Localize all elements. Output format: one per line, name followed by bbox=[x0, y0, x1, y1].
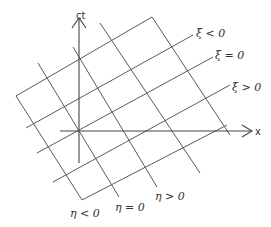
eta-lines bbox=[16, 17, 230, 200]
eta-negative-label: η < 0 bbox=[70, 207, 100, 220]
xi-positive-label: ξ > 0 bbox=[232, 81, 261, 94]
xi-line-positive bbox=[53, 85, 230, 182]
eta-zero-label: η = 0 bbox=[115, 201, 145, 214]
xi-negative-label: ξ < 0 bbox=[196, 27, 225, 40]
eta-line-positive bbox=[73, 47, 157, 187]
ct-axis-label: ct bbox=[76, 10, 85, 21]
characteristic-coordinates-diagram: ct x ξ < 0 ξ = 0 ξ > 0 η < 0 η = 0 η > 0 bbox=[0, 0, 271, 227]
eta-line-4 bbox=[100, 23, 200, 173]
eta-positive-label: η > 0 bbox=[155, 190, 185, 203]
xi-line-top-edge bbox=[16, 17, 152, 96]
xi-zero-label: ξ = 0 bbox=[215, 49, 244, 62]
x-axis-label: x bbox=[255, 126, 261, 137]
axes: ct x bbox=[60, 10, 261, 163]
xi-line-bottom-edge bbox=[82, 125, 227, 200]
eta-line-negative bbox=[16, 96, 82, 200]
xi-lines bbox=[16, 17, 230, 200]
